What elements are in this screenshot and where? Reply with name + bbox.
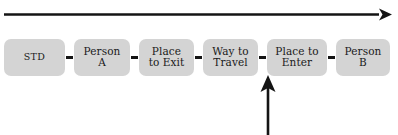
stage-label-place-to-enter: Place to Enter: [275, 46, 318, 69]
stage-label-person-a: Person A: [84, 46, 121, 69]
stage-box-place-to-exit[interactable]: Place to Exit: [139, 39, 194, 76]
stage-box-std[interactable]: STD: [4, 39, 65, 76]
stage-box-person-b[interactable]: Person B: [336, 39, 390, 76]
stage-box-person-a[interactable]: Person A: [74, 39, 130, 76]
stage-label-way-to-travel: Way to Travel: [212, 46, 249, 69]
connector-dash: [66, 56, 73, 59]
stage-label-std: STD: [24, 51, 46, 63]
stage-box-place-to-enter[interactable]: Place to Enter: [267, 39, 327, 76]
connector-dash: [328, 56, 335, 59]
highlight-pointer-arrow: [248, 72, 288, 135]
highlight-pointer-arrowhead: [261, 75, 276, 92]
time-axis-arrow: [0, 0, 398, 30]
connector-dash: [131, 56, 138, 59]
connector-dash: [195, 56, 202, 59]
stage-label-place-to-exit: Place to Exit: [149, 46, 185, 69]
connector-dash: [259, 56, 266, 59]
stage-box-way-to-travel[interactable]: Way to Travel: [203, 39, 258, 76]
stage-label-person-b: Person B: [345, 46, 382, 69]
stage-chain: STD Person A Place to Exit Way to Travel…: [4, 38, 394, 76]
diagram-canvas: STD Person A Place to Exit Way to Travel…: [0, 0, 398, 135]
time-axis-arrowhead: [379, 9, 392, 21]
